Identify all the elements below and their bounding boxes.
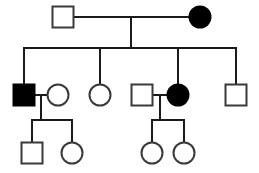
individual-ii-2-female-unaffected[interactable] (48, 85, 69, 106)
individual-i-2-female-affected[interactable] (190, 7, 211, 28)
sibship-generation-iii-group (32, 120, 184, 143)
individual-iii-2-female-unaffected[interactable] (62, 143, 83, 164)
individual-ii-4-male-unaffected[interactable] (132, 85, 153, 106)
individual-iii-4-female-unaffected[interactable] (174, 143, 195, 164)
generation-i-group (53, 7, 211, 49)
individual-iii-3-female-unaffected[interactable] (142, 143, 163, 164)
generation-iii-group (22, 143, 195, 164)
pedigree-canvas (0, 0, 259, 173)
individual-ii-5-female-affected[interactable] (168, 85, 189, 106)
individual-ii-1-male-affected[interactable] (14, 85, 35, 106)
individual-i-1-male-unaffected[interactable] (53, 7, 74, 28)
generation-ii-group (14, 85, 247, 121)
individual-ii-3-female-unaffected[interactable] (90, 85, 111, 106)
individual-ii-6-male-unaffected[interactable] (226, 85, 247, 106)
pedigree-chart (0, 0, 259, 173)
sibship-generation-ii-group (24, 48, 236, 85)
individual-iii-1-male-unaffected[interactable] (22, 143, 43, 164)
